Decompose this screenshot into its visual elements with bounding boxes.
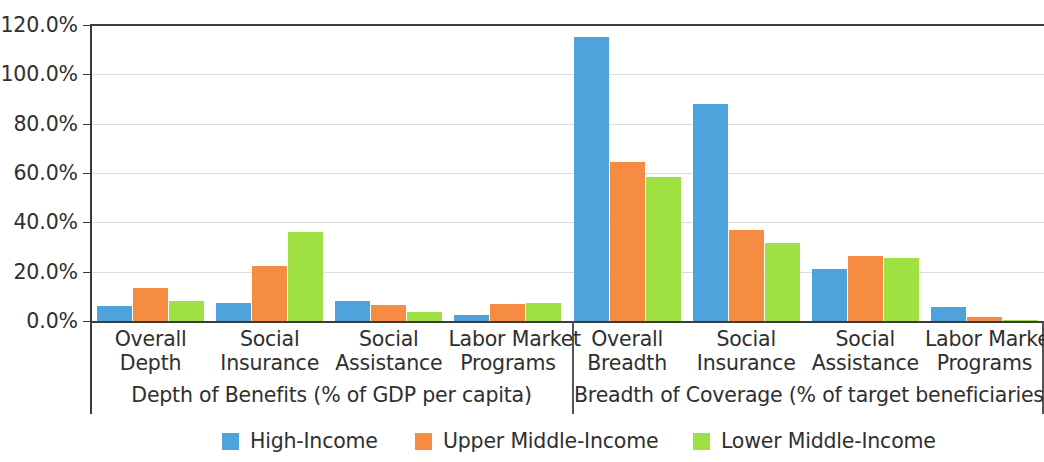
bar (133, 288, 168, 321)
bar (1003, 320, 1038, 321)
bar (729, 230, 764, 321)
legend-swatch-icon (222, 433, 239, 450)
category-label-line1: Labor Market (448, 327, 567, 351)
category-label-line2: Assistance (806, 351, 925, 375)
category-label-line1: Social (806, 327, 925, 351)
x-axis-category-label: SocialAssistance (329, 327, 448, 375)
bar (646, 177, 681, 321)
bar (335, 301, 370, 321)
bar (526, 303, 561, 322)
bar (884, 258, 919, 321)
category-label-line1: Labor Market (925, 327, 1044, 351)
category-label-line2: Breadth (568, 351, 687, 375)
bar (812, 269, 847, 321)
legend-swatch-icon (693, 433, 710, 450)
bar (169, 301, 204, 321)
chart-legend: High-IncomeUpper Middle-IncomeLower Midd… (0, 426, 1044, 462)
legend-label: High-Income (250, 429, 378, 453)
category-label-line2: Programs (448, 351, 567, 375)
legend-label: Lower Middle-Income (721, 429, 936, 453)
legend-item[interactable]: Upper Middle-Income (415, 426, 658, 456)
bar (610, 162, 645, 321)
category-label-line2: Assistance (329, 351, 448, 375)
legend-item[interactable]: Lower Middle-Income (693, 426, 936, 456)
bar (252, 266, 287, 321)
bar-chart: 0.0%20.0%40.0%60.0%80.0%100.0%120.0% Ove… (0, 0, 1044, 462)
bar (288, 232, 323, 321)
bar (848, 256, 883, 321)
bar (574, 37, 609, 321)
category-label-line2: Depth (91, 351, 210, 375)
bar (97, 306, 132, 321)
group-caption: Depth of Benefits (% of GDP per capita) (91, 383, 572, 407)
category-label-line2: Insurance (687, 351, 806, 375)
group-caption: Breadth of Coverage (% of target benefic… (574, 383, 1044, 407)
category-label-line1: Social (329, 327, 448, 351)
bar (765, 243, 800, 321)
x-axis-category-label: SocialAssistance (806, 327, 925, 375)
bar (216, 303, 251, 322)
category-label-line1: Overall (568, 327, 687, 351)
x-axis-category-label: OverallDepth (91, 327, 210, 375)
legend-item[interactable]: High-Income (222, 426, 378, 456)
category-label-line2: Programs (925, 351, 1044, 375)
category-label-line1: Social (210, 327, 329, 351)
bar (967, 317, 1002, 321)
category-label-line2: Insurance (210, 351, 329, 375)
x-axis-category-label: SocialInsurance (687, 327, 806, 375)
bar (371, 305, 406, 321)
category-label-line1: Social (687, 327, 806, 351)
legend-swatch-icon (415, 433, 432, 450)
legend-label: Upper Middle-Income (443, 429, 658, 453)
bar (693, 104, 728, 321)
x-axis-category-label: OverallBreadth (568, 327, 687, 375)
bar (931, 307, 966, 321)
x-axis-category-label: Labor MarketPrograms (448, 327, 567, 375)
x-axis-category-label: SocialInsurance (210, 327, 329, 375)
bars-layer (0, 0, 1044, 323)
bar (490, 304, 525, 321)
x-axis-category-label: Labor MarketPrograms (925, 327, 1044, 375)
category-label-line1: Overall (91, 327, 210, 351)
bar (407, 312, 442, 321)
bar (454, 315, 489, 321)
